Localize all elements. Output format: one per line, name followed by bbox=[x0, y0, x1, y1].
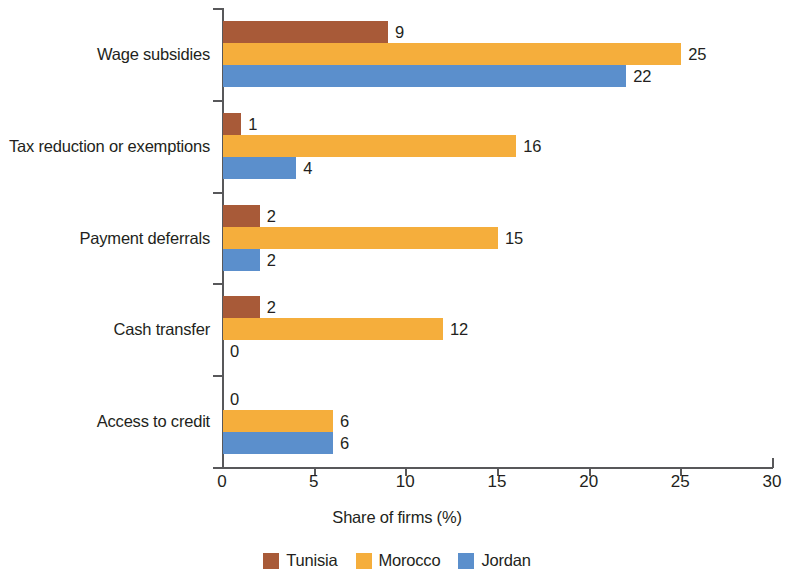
bar-row: 4 bbox=[222, 157, 772, 179]
bar-jordan[interactable] bbox=[223, 249, 260, 271]
bar-jordan[interactable] bbox=[223, 65, 626, 87]
x-axis-tick-label: 5 bbox=[309, 472, 318, 492]
category-label: Access to credit bbox=[97, 412, 210, 431]
plot-area: Wage subsidies92522Tax reduction or exem… bbox=[222, 8, 772, 467]
bar-value-label: 25 bbox=[688, 44, 706, 63]
x-axis-tick bbox=[772, 458, 774, 468]
bar-row: 12 bbox=[222, 318, 772, 340]
x-axis-tick bbox=[222, 458, 224, 468]
bar-value-label: 2 bbox=[267, 206, 276, 225]
x-axis-tick-label: 20 bbox=[579, 472, 598, 492]
legend-label: Morocco bbox=[379, 551, 441, 570]
legend-swatch-icon bbox=[356, 553, 372, 569]
y-axis-tick bbox=[213, 8, 223, 10]
bar-value-label: 2 bbox=[267, 298, 276, 317]
bar-morocco[interactable] bbox=[223, 135, 516, 157]
bar-group: Payment deferrals2152 bbox=[222, 205, 772, 271]
bar-value-label: 6 bbox=[340, 434, 349, 453]
x-axis-tick-label: 0 bbox=[217, 472, 226, 492]
bar-value-label: 12 bbox=[450, 320, 468, 339]
bar-value-label: 16 bbox=[523, 136, 541, 155]
legend-label: Tunisia bbox=[286, 551, 337, 570]
legend-item-jordan[interactable]: Jordan bbox=[458, 551, 530, 570]
bar-value-label: 22 bbox=[633, 66, 651, 85]
bar-value-label: 6 bbox=[340, 412, 349, 431]
bar-value-label: 0 bbox=[230, 342, 239, 361]
category-label: Cash transfer bbox=[114, 320, 210, 339]
y-axis-tick bbox=[213, 375, 223, 377]
legend-swatch-icon bbox=[263, 553, 279, 569]
bar-group: Access to credit066 bbox=[222, 388, 772, 454]
legend-item-morocco[interactable]: Morocco bbox=[356, 551, 441, 570]
bar-morocco[interactable] bbox=[223, 43, 681, 65]
bar-row: 0 bbox=[222, 388, 772, 410]
bar-tunisia[interactable] bbox=[223, 296, 260, 318]
bar-row: 2 bbox=[222, 249, 772, 271]
bar-value-label: 15 bbox=[505, 228, 523, 247]
bar-value-label: 1 bbox=[248, 114, 257, 133]
bar-jordan[interactable] bbox=[223, 432, 333, 454]
bar-row: 6 bbox=[222, 410, 772, 432]
bar-value-label: 0 bbox=[230, 390, 239, 409]
bar-chart: Wage subsidies92522Tax reduction or exem… bbox=[0, 0, 794, 584]
chart-legend: TunisiaMoroccoJordan bbox=[0, 551, 794, 570]
legend-item-tunisia[interactable]: Tunisia bbox=[263, 551, 337, 570]
bar-row: 2 bbox=[222, 296, 772, 318]
x-axis-title: Share of firms (%) bbox=[0, 508, 794, 527]
bar-group: Wage subsidies92522 bbox=[222, 21, 772, 87]
x-axis-tick-label: 15 bbox=[488, 472, 507, 492]
bar-row: 15 bbox=[222, 227, 772, 249]
bar-row: 22 bbox=[222, 65, 772, 87]
bar-morocco[interactable] bbox=[223, 318, 443, 340]
bar-value-label: 4 bbox=[303, 158, 312, 177]
bar-row: 25 bbox=[222, 43, 772, 65]
category-label: Wage subsidies bbox=[97, 44, 210, 63]
category-label: Tax reduction or exemptions bbox=[9, 136, 210, 155]
x-axis-tick-label: 10 bbox=[396, 472, 415, 492]
bar-row: 2 bbox=[222, 205, 772, 227]
x-axis-tick-label: 30 bbox=[763, 472, 782, 492]
bar-tunisia[interactable] bbox=[223, 205, 260, 227]
bar-morocco[interactable] bbox=[223, 410, 333, 432]
bar-row: 0 bbox=[222, 340, 772, 362]
bar-morocco[interactable] bbox=[223, 227, 498, 249]
bar-group: Tax reduction or exemptions1164 bbox=[222, 113, 772, 179]
legend-label: Jordan bbox=[481, 551, 530, 570]
bar-row: 9 bbox=[222, 21, 772, 43]
legend-swatch-icon bbox=[458, 553, 474, 569]
y-axis-tick bbox=[213, 283, 223, 285]
y-axis-tick bbox=[213, 192, 223, 194]
x-axis-tick-label: 25 bbox=[671, 472, 690, 492]
y-axis-tick bbox=[213, 100, 223, 102]
bar-tunisia[interactable] bbox=[223, 21, 388, 43]
bar-value-label: 9 bbox=[395, 22, 404, 41]
bar-jordan[interactable] bbox=[223, 157, 296, 179]
bar-row: 16 bbox=[222, 135, 772, 157]
bar-tunisia[interactable] bbox=[223, 113, 241, 135]
category-label: Payment deferrals bbox=[80, 228, 211, 247]
bar-value-label: 2 bbox=[267, 250, 276, 269]
bar-row: 1 bbox=[222, 113, 772, 135]
bar-group: Cash transfer2120 bbox=[222, 296, 772, 362]
bar-row: 6 bbox=[222, 432, 772, 454]
